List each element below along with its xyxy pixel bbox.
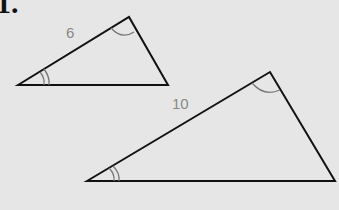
large-triangle: 10 — [87, 72, 335, 181]
angle-arc-single-large — [252, 83, 280, 92]
similar-triangles-figure: 6 10 — [0, 0, 339, 210]
angle-arc-double-small-1 — [40, 72, 44, 85]
angle-arc-double-large-1 — [109, 168, 114, 181]
small-triangle: 6 — [18, 17, 168, 85]
angle-arc-single-small — [111, 28, 134, 35]
side-label-10: 10 — [172, 95, 189, 112]
side-label-6: 6 — [66, 24, 74, 41]
